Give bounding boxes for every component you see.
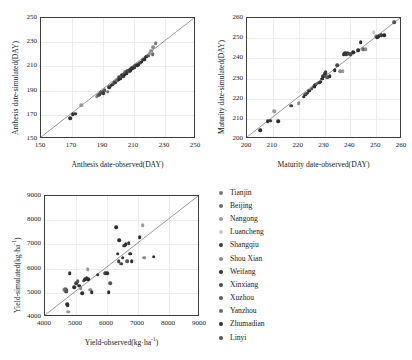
scatter-point bbox=[276, 119, 280, 123]
scatter-point bbox=[272, 109, 276, 113]
legend-label: Shangqiu bbox=[230, 241, 259, 249]
legend-label: Xuzhou bbox=[230, 294, 254, 302]
scatter-point bbox=[359, 40, 363, 44]
scatter-point bbox=[154, 42, 158, 46]
scatter-point bbox=[108, 281, 112, 285]
y-tick-label: 7000 bbox=[23, 240, 41, 247]
x-tick-label: 150 bbox=[35, 142, 46, 149]
legend-marker-icon bbox=[219, 230, 223, 234]
panel-maturity: Maturity date-simulated(DAY) Maturity da… bbox=[206, 0, 412, 180]
scatter-point bbox=[80, 103, 84, 107]
legend-label: Tianjin bbox=[230, 189, 252, 197]
legend-label: Yanzhou bbox=[230, 307, 257, 315]
scatter-point bbox=[152, 255, 156, 259]
x-tick-label: 190 bbox=[97, 142, 108, 149]
legend-marker-icon bbox=[219, 296, 223, 300]
scatter-point bbox=[105, 272, 109, 276]
y-tick-label: 200 bbox=[225, 135, 243, 142]
axis-x-title-yield: Yield-observed(kg·ha-1) bbox=[44, 338, 199, 347]
y-tick-label: 6000 bbox=[23, 264, 41, 271]
legend-item-xinxiang[interactable]: Xinxiang bbox=[219, 278, 329, 291]
legend-marker-icon bbox=[219, 309, 223, 313]
x-tick-label: 260 bbox=[396, 142, 407, 149]
scatter-point bbox=[106, 90, 110, 94]
scatter-point bbox=[141, 223, 145, 227]
scatter-point bbox=[130, 260, 134, 264]
scatter-point bbox=[324, 71, 328, 75]
scatter-point bbox=[268, 119, 272, 123]
legend-item-tianjin[interactable]: Tianjin bbox=[219, 186, 329, 199]
x-tick-label: 200 bbox=[241, 142, 252, 149]
plot-area-maturity bbox=[246, 17, 401, 138]
legend-marker-icon bbox=[219, 243, 223, 247]
panel-anthesis: Anthesis date-simulated(DAY) Anthesis da… bbox=[0, 0, 206, 180]
legend-label: Linyi bbox=[230, 334, 246, 342]
legend-item-luancheng[interactable]: Luancheng bbox=[219, 226, 329, 239]
scatter-point bbox=[86, 267, 90, 271]
legend-marker-icon bbox=[219, 191, 223, 195]
y-tick-label: 230 bbox=[225, 74, 243, 81]
scatter-point bbox=[289, 104, 293, 108]
x-tick-label: 6000 bbox=[99, 320, 113, 327]
scatter-point bbox=[121, 256, 125, 260]
y-tick-label: 220 bbox=[225, 94, 243, 101]
y-tick-label: 250 bbox=[19, 14, 37, 21]
scatter-point bbox=[328, 75, 332, 79]
legend-item-zhumadian[interactable]: Zhumadian bbox=[219, 318, 329, 331]
y-tick-label: 260 bbox=[225, 14, 243, 21]
axis-y-title-yield-text: Yield-simulated(kg·ha-1) bbox=[13, 238, 22, 313]
scatter-point bbox=[382, 33, 386, 37]
plot-area-anthesis bbox=[40, 17, 195, 138]
legend-item-linyi[interactable]: Linyi bbox=[219, 331, 329, 344]
scatter-point bbox=[96, 273, 100, 277]
scatter-point bbox=[333, 69, 337, 73]
plot-area-yield bbox=[44, 195, 199, 316]
scatter-point bbox=[356, 48, 360, 52]
scatter-point bbox=[341, 70, 345, 74]
x-tick-label: 170 bbox=[66, 142, 77, 149]
legend-marker-icon bbox=[219, 217, 223, 221]
scatter-point bbox=[69, 117, 73, 121]
x-tick-label: 9000 bbox=[192, 320, 206, 327]
axis-y-title-yield: Yield-simulated(kg·ha-1) bbox=[13, 238, 22, 313]
y-tick-label: 230 bbox=[19, 38, 37, 45]
scatter-point bbox=[87, 277, 91, 281]
y-tick-label: 210 bbox=[225, 114, 243, 121]
legend-item-shou-xian[interactable]: Shou Xian bbox=[219, 252, 329, 265]
panel-yield: Yield-simulated(kg·ha-1) Yield-observed(… bbox=[0, 180, 212, 360]
scatter-point bbox=[90, 291, 94, 295]
legend-item-yanzhou[interactable]: Yanzhou bbox=[219, 305, 329, 318]
scatter-point bbox=[73, 112, 77, 116]
axis-x-title-anthesis: Anthesis date-observed(DAY) bbox=[40, 160, 195, 169]
scatter-point bbox=[142, 256, 146, 260]
scatter-point bbox=[128, 252, 132, 256]
legend-marker-icon bbox=[219, 322, 223, 326]
legend-marker-icon bbox=[219, 257, 223, 261]
scatter-point bbox=[116, 252, 120, 256]
y-tick-label: 170 bbox=[19, 110, 37, 117]
axis-x-title-yield-text: Yield-observed(kg·ha-1) bbox=[85, 338, 158, 347]
scatter-point bbox=[336, 64, 340, 68]
x-tick-label: 8000 bbox=[161, 320, 175, 327]
legend-item-xuzhou[interactable]: Xuzhou bbox=[219, 292, 329, 305]
legend-item-weifang[interactable]: Weifang bbox=[219, 265, 329, 278]
legend-marker-icon bbox=[219, 283, 223, 287]
x-tick-label: 220 bbox=[292, 142, 303, 149]
x-tick-label: 210 bbox=[128, 142, 139, 149]
legend-item-beijing[interactable]: Beijing bbox=[219, 199, 329, 212]
scatter-point bbox=[258, 128, 262, 132]
legend-label: Luancheng bbox=[230, 228, 264, 236]
legend-item-shangqiu[interactable]: Shangqiu bbox=[219, 239, 329, 252]
x-tick-label: 5000 bbox=[68, 320, 82, 327]
scatter-point bbox=[66, 304, 70, 308]
scatter-point bbox=[118, 238, 122, 242]
legend-label: Zhumadian bbox=[230, 320, 265, 328]
legend-item-nangong[interactable]: Nangong bbox=[219, 212, 329, 225]
scatter-point bbox=[372, 30, 376, 34]
scatter-point bbox=[65, 289, 69, 293]
y-tick-label: 5000 bbox=[23, 288, 41, 295]
x-tick-label: 4000 bbox=[37, 320, 51, 327]
scatter-point bbox=[107, 291, 111, 295]
legend-label: Nangong bbox=[230, 215, 258, 223]
y-tick-label: 8000 bbox=[23, 216, 41, 223]
